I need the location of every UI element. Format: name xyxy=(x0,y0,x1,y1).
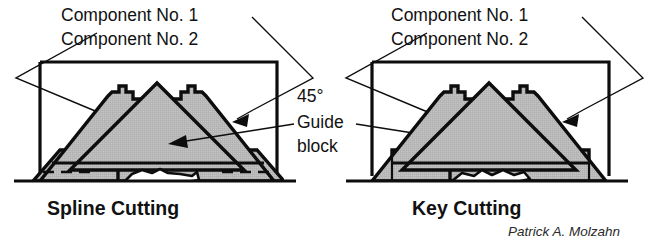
label-component-no-2-right: Component No. 2 xyxy=(391,29,528,49)
leader-arrowhead xyxy=(562,114,579,127)
caption-key-cutting: Key Cutting xyxy=(412,197,521,219)
leader-component-1-right xyxy=(562,17,643,127)
label-component-no-1-right: Component No. 1 xyxy=(391,5,528,25)
figure-root: Component No. 1 Component No. 2 Spline C… xyxy=(0,0,659,244)
credit-author: Patrick A. Molzahn xyxy=(508,224,620,239)
label-component-no-2-left: Component No. 2 xyxy=(61,29,198,49)
label-45-degrees: 45° xyxy=(297,86,323,106)
key-cutting-diagram: Component No. 1 Component No. 2 Key Cutt… xyxy=(346,5,643,219)
label-component-no-1-left: Component No. 1 xyxy=(61,5,198,25)
spline-cutting-diagram: Component No. 1 Component No. 2 Spline C… xyxy=(14,5,313,219)
leader-component-1-left xyxy=(232,17,313,127)
label-block: block xyxy=(297,136,338,156)
caption-spline-cutting: Spline Cutting xyxy=(47,197,179,219)
label-guide: Guide xyxy=(297,112,344,132)
diagram-canvas: Component No. 1 Component No. 2 Spline C… xyxy=(0,0,659,244)
leader-arrowhead xyxy=(232,114,249,127)
